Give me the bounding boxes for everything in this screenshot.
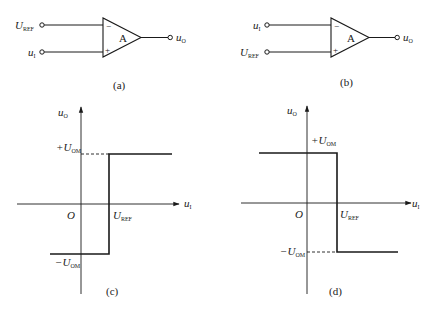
panel-a-inverting-label: UREF [15, 19, 35, 32]
terminal-icon [40, 50, 44, 54]
terminal-icon [265, 50, 269, 54]
panel-d-pos-level-label: +UOM [311, 134, 337, 147]
panel-d-caption: (d) [329, 285, 342, 298]
panel-c-threshold-label: UREF [113, 209, 133, 222]
panel-d-threshold-label: UREF [340, 208, 360, 221]
terminal-icon [395, 35, 399, 39]
amp-label: A [347, 32, 355, 44]
panel-a-output-label: uO [176, 31, 187, 44]
plus-sign: + [105, 45, 110, 55]
panel-a-caption: (a) [113, 79, 126, 92]
panel-b-inverting-label: uI [253, 19, 261, 32]
terminal-icon [40, 23, 44, 27]
panel-c-caption: (c) [106, 285, 119, 298]
panel-c-neg-level-label: −UOM [55, 256, 81, 269]
panel-b-output-label: uO [403, 31, 414, 44]
panel-c-plot [17, 107, 179, 294]
panel-d-neg-level-label: −UOM [280, 245, 306, 258]
terminal-icon [265, 23, 269, 27]
panel-d-x-label: uI [412, 197, 420, 210]
panel-d-y-label: uO [287, 104, 298, 117]
panel-b-noninverting-label: UREF [240, 46, 260, 59]
minus-sign: − [106, 21, 111, 31]
terminal-icon [168, 35, 172, 39]
panel-c-y-label: uO [58, 106, 69, 119]
panel-d-origin-label: O [295, 208, 303, 220]
panel-a-noninverting-label: uI [28, 46, 36, 59]
amp-label: A [119, 32, 127, 44]
panel-b-caption: (b) [340, 76, 353, 89]
minus-sign: − [334, 21, 339, 31]
plus-sign: + [333, 45, 338, 55]
panel-c-x-label: uI [184, 197, 192, 210]
panel-c-pos-level-label: +UOM [56, 141, 82, 154]
panel-c-origin-label: O [67, 209, 75, 221]
transfer-curve [259, 153, 398, 252]
comparator-figure: UREF uI − + A uO (a) uI UREF − + A uO (b… [0, 0, 429, 313]
